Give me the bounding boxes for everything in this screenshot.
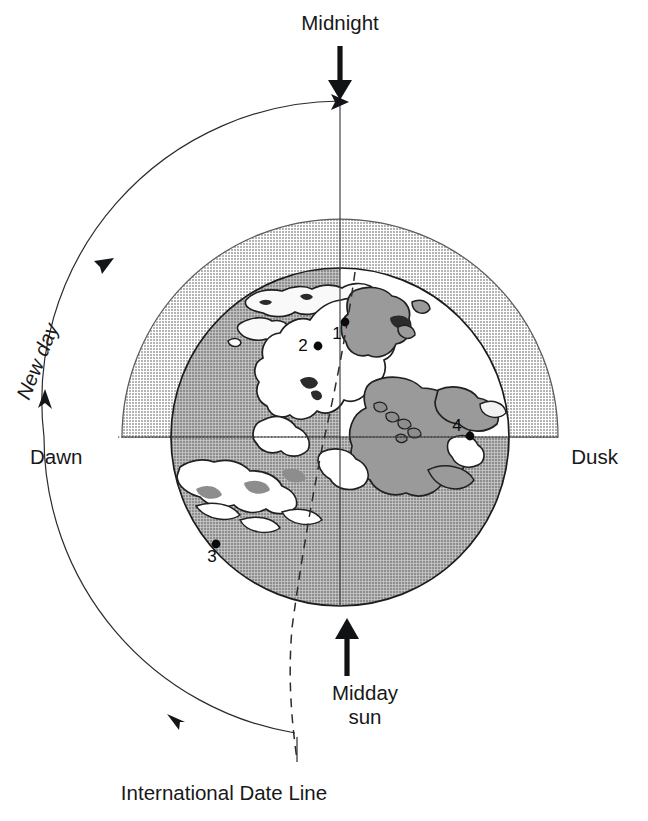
label-international-date-line: International Date Line [121,781,327,804]
marker-label-1: 1 [332,324,341,343]
rotation-arrowhead-upper-left [94,258,114,274]
marker-label-3: 3 [207,547,216,566]
diagram-canvas: 1 2 3 4 Midnight Dawn Dusk Midday sun In… [0,0,648,821]
midday-sun-arrow [335,618,359,676]
rotation-arrowhead-bottom [167,714,185,730]
marker-dot-1[interactable] [341,318,350,327]
label-midday-sun-line2: sun [348,705,381,728]
midnight-arrow [328,46,352,100]
rotation-arrowhead-left [38,389,52,409]
label-dusk: Dusk [571,445,618,468]
marker-dot-2[interactable] [314,342,323,351]
label-new-day: New day [11,318,63,402]
label-dawn: Dawn [30,445,82,468]
label-new-day-group: New day [11,318,63,402]
label-midday-sun-line1: Midday [332,681,399,704]
marker-label-2: 2 [298,336,307,355]
marker-dot-4[interactable] [466,432,475,441]
land-small-isle-left [228,339,241,347]
earth-rotation-diagram: 1 2 3 4 Midnight Dawn Dusk Midday sun In… [0,0,648,821]
label-midnight: Midnight [301,11,379,34]
marker-label-4: 4 [452,416,461,435]
